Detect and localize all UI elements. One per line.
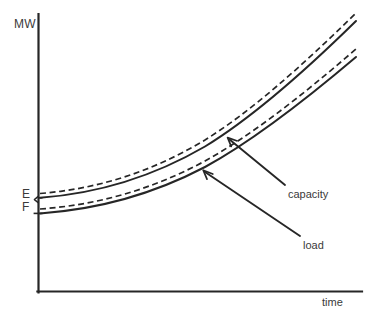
y-tick-label-f: F — [22, 201, 29, 213]
chart-canvas — [0, 0, 369, 323]
y-tick-label-e: E — [22, 188, 30, 200]
y-axis-label: MW — [14, 18, 36, 30]
load-upper-dashed-curve — [40, 49, 356, 209]
capacity-callout-label: capacity — [288, 189, 328, 200]
capacity-upper-dashed-curve — [40, 13, 356, 194]
capacity-callout-arrow — [228, 138, 285, 185]
chart-figure: MW time E F capacity load — [0, 0, 369, 323]
x-axis-label: time — [322, 297, 343, 308]
load-callout-arrow — [203, 170, 300, 236]
load-callout-label: load — [303, 240, 324, 251]
